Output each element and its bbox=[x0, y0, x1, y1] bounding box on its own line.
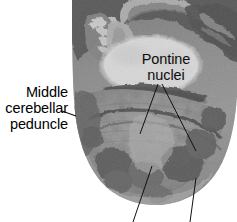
label-middle-cerebellar-peduncle: Middle cerebellar peduncle bbox=[0, 84, 68, 132]
label-mcp-line-3: peduncle bbox=[0, 116, 68, 132]
label-pontine-nuclei: Pontine nuclei bbox=[131, 51, 201, 83]
label-pontine-line-2: nuclei bbox=[131, 67, 201, 83]
specimen-photo bbox=[72, 0, 237, 210]
figure-root: Middle cerebellar peduncle Pontine nucle… bbox=[0, 0, 237, 222]
label-mcp-line-1: Middle bbox=[0, 84, 68, 100]
label-mcp-line-2: cerebellar bbox=[0, 100, 68, 116]
label-pontine-line-1: Pontine bbox=[131, 51, 201, 67]
